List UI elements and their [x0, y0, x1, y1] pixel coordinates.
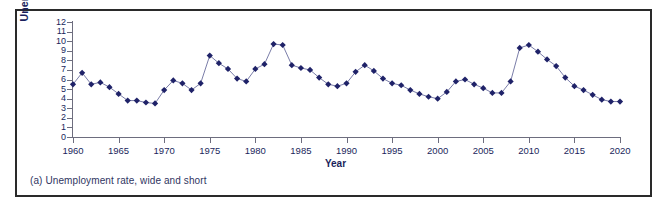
y-tick-mark: [67, 99, 72, 100]
x-tick-mark: [347, 138, 348, 143]
data-point-marker: 1974: 5.6%: [198, 80, 204, 86]
y-tick-label: 3: [48, 104, 66, 113]
y-tick-label: 7: [48, 65, 66, 74]
data-point-marker: 1992: 7.5%: [362, 62, 368, 68]
y-tick-mark: [67, 60, 72, 61]
x-tick-mark: [73, 138, 74, 143]
data-point-marker: 1965: 4.5%: [115, 91, 121, 97]
x-tick-mark: [529, 138, 530, 143]
y-tick-label: 1: [48, 123, 66, 132]
data-point-marker: 1999: 4.2%: [425, 94, 431, 100]
data-point-marker: 1982: 9.7%: [270, 41, 276, 47]
data-point-marker: 2010: 9.6%: [526, 42, 532, 48]
data-point-marker: 1984: 7.5%: [289, 62, 295, 68]
plot-area: 1960: 5.5%1961: 6.7%1962: 5.5%1963: 5.7%…: [73, 22, 620, 137]
data-point-marker: 1995: 5.6%: [389, 80, 395, 86]
data-point-marker: 1989: 5.3%: [334, 83, 340, 89]
x-tick-mark: [438, 138, 439, 143]
data-point-marker: 1979: 5.8%: [243, 78, 249, 84]
y-tick-label: 5: [48, 85, 66, 94]
data-point-marker: 1966: 3.8%: [125, 97, 131, 103]
data-point-marker: 2016: 4.9%: [580, 87, 586, 93]
y-tick-label: 6: [48, 75, 66, 84]
data-point-marker: 1988: 5.5%: [325, 81, 331, 87]
x-tick-mark: [301, 138, 302, 143]
y-tick-label: 11: [48, 27, 66, 36]
y-axis-title: Unemployment Rate (%): [17, 0, 31, 26]
y-tick-label: 2: [48, 113, 66, 122]
data-point-marker: 2009: 9.3%: [517, 45, 523, 51]
x-tick-label: 2005: [461, 145, 505, 156]
y-tick-mark: [67, 108, 72, 109]
x-tick-label: 1965: [97, 145, 141, 156]
figure-root: Unemployment Rate (%) 0123456789101112 1…: [0, 0, 671, 207]
data-point-marker: 1983: 9.6%: [280, 42, 286, 48]
y-tick-mark: [67, 41, 72, 42]
data-point-marker: 2003: 6%: [462, 76, 468, 82]
x-tick-label: 1980: [233, 145, 277, 156]
data-point-marker: 1963: 5.7%: [97, 79, 103, 85]
y-tick-mark: [67, 51, 72, 52]
data-point-marker: 1967: 3.8%: [134, 97, 140, 103]
x-tick-label: 1975: [188, 145, 232, 156]
x-tick-label: 1970: [142, 145, 186, 156]
y-tick-mark: [67, 70, 72, 71]
data-point-marker: 1973: 4.9%: [188, 87, 194, 93]
x-tick-label: 2020: [598, 145, 642, 156]
x-tick-mark: [210, 138, 211, 143]
x-tick-label: 2015: [552, 145, 596, 156]
y-tick-mark: [67, 127, 72, 128]
x-tick-label: 1995: [370, 145, 414, 156]
y-tick-label: 8: [48, 56, 66, 65]
data-point-marker: 2005: 5.1%: [480, 85, 486, 91]
data-point-marker: 2018: 3.9%: [599, 97, 605, 103]
y-tick-label: 4: [48, 94, 66, 103]
data-point-marker: 1980: 7.1%: [252, 66, 258, 72]
figure-caption: (a) Unemployment rate, wide and short: [30, 175, 207, 186]
data-point-marker: 2004: 5.5%: [471, 81, 477, 87]
y-tick-mark: [67, 22, 72, 23]
x-tick-mark: [483, 138, 484, 143]
y-tick-label: 10: [48, 37, 66, 46]
data-point-marker: 1969: 3.5%: [152, 100, 158, 106]
x-tick-mark: [574, 138, 575, 143]
y-tick-mark: [67, 118, 72, 119]
data-point-marker: 2017: 4.4%: [590, 92, 596, 98]
data-point-marker: 2006: 4.6%: [489, 90, 495, 96]
x-tick-mark: [255, 138, 256, 143]
y-axis-tick-labels: 0123456789101112: [46, 0, 66, 160]
series-markers: 1960: 5.5%1961: 6.7%1962: 5.5%1963: 5.7%…: [70, 41, 623, 107]
x-tick-mark: [620, 138, 621, 143]
x-axis-title: Year: [0, 158, 671, 169]
data-point-marker: 2000: 4%: [435, 96, 441, 102]
data-point-marker: 1964: 5.2%: [106, 84, 112, 90]
data-point-marker: 1998: 4.5%: [416, 91, 422, 97]
x-tick-label: 1985: [279, 145, 323, 156]
data-point-marker: 1996: 5.4%: [398, 82, 404, 88]
y-tick-mark: [67, 137, 72, 138]
x-tick-label: 2000: [416, 145, 460, 156]
series-unemployment-rate: 1960: 5.5%1961: 6.7%1962: 5.5%1963: 5.7%…: [73, 22, 620, 137]
x-tick-mark: [392, 138, 393, 143]
data-point-marker: 1997: 4.9%: [407, 87, 413, 93]
data-point-marker: 2019: 3.7%: [608, 98, 614, 104]
data-point-marker: 1972: 5.6%: [179, 80, 185, 86]
data-point-marker: 1981: 7.6%: [261, 61, 267, 67]
x-tick-mark: [164, 138, 165, 143]
y-tick-mark: [67, 80, 72, 81]
y-tick-label: 9: [48, 46, 66, 55]
y-tick-mark: [67, 32, 72, 33]
x-tick-label: 1990: [325, 145, 369, 156]
data-point-marker: 1968: 3.6%: [143, 99, 149, 105]
y-tick-label: 12: [48, 18, 66, 27]
data-point-marker: 1985: 7.2%: [298, 65, 304, 71]
x-tick-mark: [119, 138, 120, 143]
x-tick-label: 2010: [507, 145, 551, 156]
y-tick-label: 0: [48, 133, 66, 142]
y-tick-mark: [67, 89, 72, 90]
x-tick-label: 1960: [51, 145, 95, 156]
